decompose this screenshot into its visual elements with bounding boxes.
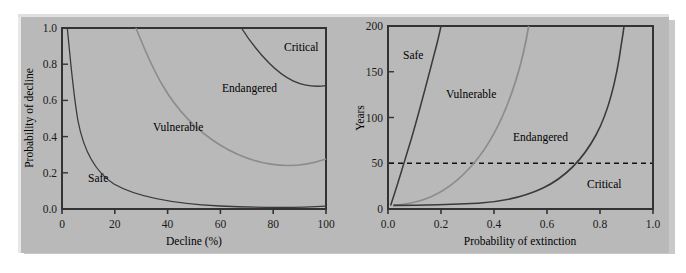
left-ytick-5: 0.0 — [43, 203, 58, 215]
right-xtick-3: 0.6 — [540, 218, 555, 230]
right-xtick-1: 0.2 — [434, 218, 449, 230]
right-ytick-2: 100 — [366, 112, 384, 124]
left-ytick-1: 0.8 — [43, 58, 58, 70]
right-chart: 200 150 100 50 0 0.0 0.2 0.4 0.6 0.8 1.0… — [354, 20, 660, 248]
right-xtick-0: 0.0 — [381, 218, 396, 230]
right-xtick-5: 1.0 — [646, 218, 661, 230]
left-y-axis-title: Probability of decline — [23, 68, 36, 168]
left-xtick-0: 0 — [59, 218, 65, 230]
left-xtick-2: 40 — [162, 218, 174, 230]
right-xtick-2: 0.4 — [487, 218, 502, 230]
right-region-critical: Critical — [587, 178, 622, 190]
right-xtick-4: 0.8 — [593, 218, 608, 230]
right-region-safe: Safe — [403, 49, 423, 61]
left-region-vulnerable: Vulnerable — [153, 121, 203, 133]
left-region-safe: Safe — [88, 172, 108, 184]
left-xtick-4: 80 — [267, 218, 279, 230]
right-ytick-4: 0 — [377, 203, 383, 215]
right-x-axis-title: Probability of extinction — [464, 235, 577, 248]
right-ytick-1: 150 — [366, 66, 384, 78]
left-ytick-4: 0.2 — [43, 167, 58, 179]
right-region-endangered: Endangered — [513, 131, 568, 144]
right-ytick-3: 50 — [372, 157, 384, 169]
right-y-axis-title: Years — [354, 105, 366, 131]
left-region-endangered: Endangered — [222, 82, 277, 95]
right-ytick-0: 200 — [366, 20, 384, 32]
left-region-critical: Critical — [284, 41, 319, 53]
right-region-vulnerable: Vulnerable — [446, 88, 496, 100]
right-x-tick-labels: 0.0 0.2 0.4 0.6 0.8 1.0 — [381, 218, 661, 230]
figure-container: 1.0 0.8 0.6 0.4 0.2 0.0 0 20 40 60 80 10… — [0, 0, 686, 273]
left-ytick-3: 0.4 — [43, 131, 58, 143]
right-y-tick-labels: 200 150 100 50 0 — [366, 20, 384, 215]
left-x-tick-labels: 0 20 40 60 80 100 — [59, 218, 335, 230]
left-chart: 1.0 0.8 0.6 0.4 0.2 0.0 0 20 40 60 80 10… — [23, 22, 335, 248]
left-xtick-1: 20 — [109, 218, 121, 230]
left-curve-endangered-critical — [242, 28, 327, 86]
left-x-axis-title: Decline (%) — [166, 235, 222, 248]
charts-svg: 1.0 0.8 0.6 0.4 0.2 0.0 0 20 40 60 80 10… — [0, 0, 686, 273]
left-xtick-5: 100 — [317, 218, 335, 230]
left-ytick-2: 0.6 — [43, 94, 58, 106]
left-ytick-0: 1.0 — [43, 22, 58, 34]
left-y-tick-labels: 1.0 0.8 0.6 0.4 0.2 0.0 — [43, 22, 58, 215]
left-xtick-3: 60 — [215, 218, 227, 230]
